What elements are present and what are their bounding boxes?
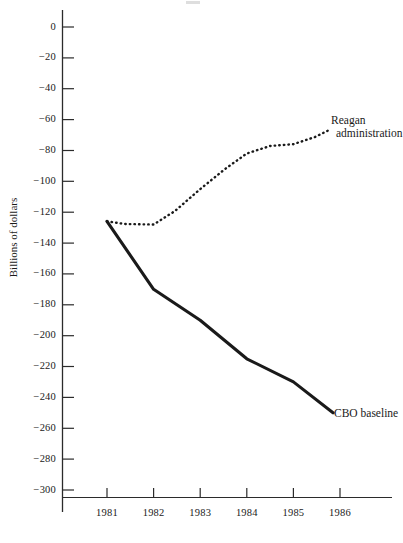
series-annotation-reagan-administration: Reagan administration xyxy=(331,114,402,140)
x-tick-label-1981: 1981 xyxy=(83,508,131,519)
x-tick-label-1983: 1983 xyxy=(176,508,224,519)
y-tick-label-m80: −80 xyxy=(4,145,56,156)
chart-container: 0 −20 −40 −60 −80 −100 −120 −140 −160 −1… xyxy=(0,0,403,543)
x-tick-label-1984: 1984 xyxy=(223,508,271,519)
series-annotation-cbo-label: CBO baseline xyxy=(334,407,398,419)
y-tick-label-m240: −240 xyxy=(4,392,56,403)
y-tick-label-m200: −200 xyxy=(4,330,56,341)
y-axis-title: Billions of dollars xyxy=(8,173,19,303)
x-axis-ticks xyxy=(107,488,340,498)
x-tick-label-1982: 1982 xyxy=(130,508,178,519)
y-tick-label-m220: −220 xyxy=(4,361,56,372)
y-tick-label-m60: −60 xyxy=(4,114,56,125)
y-tick-label-0: 0 xyxy=(4,22,56,33)
plot-area xyxy=(0,0,403,543)
y-tick-label-m40: −40 xyxy=(4,83,56,94)
y-tick-label-m300: −300 xyxy=(4,485,56,496)
y-tick-label-m260: −260 xyxy=(4,423,56,434)
y-tick-label-m20: −20 xyxy=(4,52,56,63)
y-axis-ticks xyxy=(63,27,75,490)
series-annotation-reagan-line1: Reagan xyxy=(331,114,365,126)
series-annotation-cbo-baseline: CBO baseline xyxy=(334,407,398,420)
series-line-cbo-baseline xyxy=(107,221,333,412)
x-tick-label-1985: 1985 xyxy=(269,508,317,519)
series-annotation-reagan-line2: administration xyxy=(336,127,402,140)
y-tick-label-m280: −280 xyxy=(4,454,56,465)
series-line-reagan-administration xyxy=(107,130,330,225)
x-tick-label-1986: 1986 xyxy=(316,508,364,519)
